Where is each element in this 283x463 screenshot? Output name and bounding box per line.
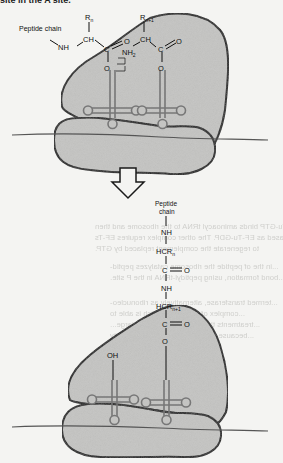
rn-label: Rn [85, 13, 93, 23]
peptide-chain-label-bottom-line2: chain [159, 208, 175, 215]
c-right-label: C [158, 45, 164, 54]
hcrn1-label: HCRn+1 [156, 302, 181, 312]
nh-label-bottom: NH [161, 284, 172, 293]
c2-label: C [162, 320, 168, 329]
ch-right-label: CH [140, 35, 151, 44]
peptide-chain-label-bottom-line1: Peptide [155, 200, 177, 208]
o-right-carbonyl-label: O [176, 37, 182, 46]
ribosome-diagram: Peptide chain NH Rn CH C O O NH2 Rn+1 CH… [0, 0, 283, 463]
top-ribosome: Peptide chain NH Rn CH C O O NH2 Rn+1 CH… [12, 13, 268, 174]
nh-top-label: NH [161, 228, 172, 237]
ch-left-label: CH [83, 35, 94, 44]
c-left-label: C [104, 45, 110, 54]
o-left-carbonyl-label: O [124, 37, 130, 46]
rn1-label: Rn+1 [140, 13, 154, 23]
c-label: C [162, 266, 168, 275]
o-right-ester-label: O [158, 64, 164, 73]
o-ester-label: O [162, 337, 168, 346]
bottom-ribosome: Peptide chain NH HCRn C O NH HCRn+1 C O … [12, 200, 268, 457]
textbook-page: site in the A site. EF-Tu-GTP binds amin… [0, 0, 283, 463]
small-subunit-top [54, 118, 215, 175]
nh-label: NH [58, 43, 69, 52]
o-label: O [184, 266, 190, 275]
peptide-chain-label-top: Peptide chain [19, 25, 62, 33]
oh-label: OH [107, 351, 118, 360]
o2-label: O [184, 320, 190, 329]
hcrn-label: HCRn [156, 247, 175, 257]
o-left-ester-label: O [104, 64, 110, 73]
